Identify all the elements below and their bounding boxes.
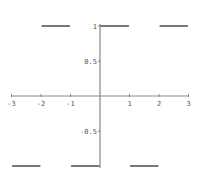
- x-tick-label: -2: [37, 100, 45, 108]
- y-tick-label: 0.5: [84, 58, 97, 66]
- y-tick-label: 1: [93, 23, 97, 31]
- x-tick-label: -3: [7, 100, 15, 108]
- square-wave-plot: -3-2-112310.5-0.5: [0, 0, 202, 183]
- x-tick-label: 3: [186, 100, 190, 108]
- axes: [12, 24, 189, 168]
- x-tick-label: 2: [157, 100, 161, 108]
- x-tick-label: -1: [66, 100, 74, 108]
- y-tick-label: -0.5: [80, 128, 97, 136]
- tick-labels: -3-2-112310.5-0.5: [7, 23, 190, 136]
- x-tick-label: 1: [127, 100, 131, 108]
